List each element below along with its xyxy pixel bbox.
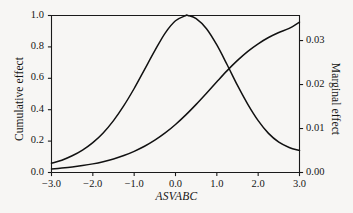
y-axis-right-tick-label: 0.03: [306, 34, 346, 45]
y-axis-right-title: Marginal effect: [330, 44, 342, 154]
series-line-cumulative-effect: [52, 22, 300, 169]
series-line-marginal-effect: [52, 15, 300, 163]
axes-frame: [52, 16, 300, 173]
chart-figure: 0.00.20.40.60.81.00.000.010.020.03−3.0−2…: [0, 0, 353, 213]
y-axis-left-tick-label: 0.0: [0, 166, 44, 177]
y-axis-left-title: Cumulative effect: [13, 44, 25, 154]
y-axis-right-tick-label: 0.00: [306, 166, 346, 177]
series-lines: [52, 15, 300, 169]
x-axis-tick-label: 3.0: [275, 178, 325, 189]
x-axis-title: ASVABC: [0, 190, 353, 202]
y-axis-left-tick-label: 1.0: [0, 9, 44, 20]
